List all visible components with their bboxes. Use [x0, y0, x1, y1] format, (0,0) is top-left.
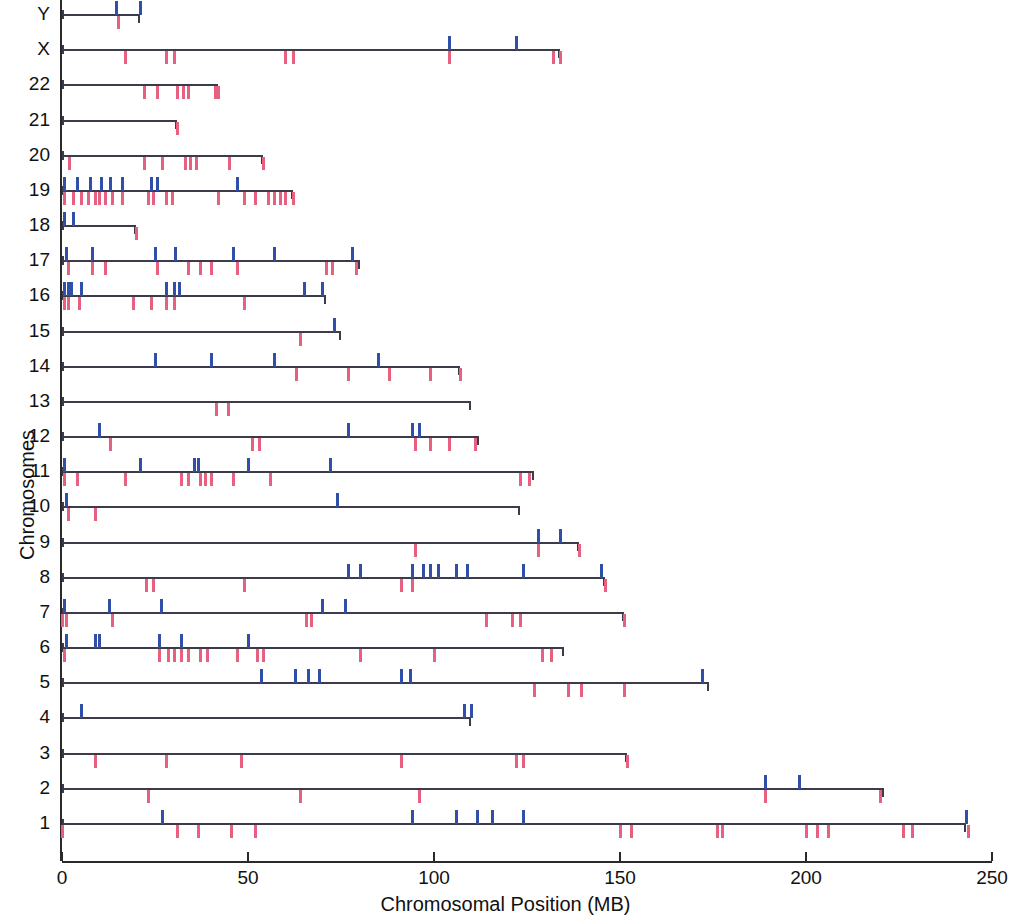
- marker-blue: [798, 775, 801, 789]
- marker-red: [173, 297, 176, 310]
- chromosome-end-cap: [339, 331, 341, 340]
- marker-red: [721, 825, 724, 838]
- marker-red: [165, 297, 168, 310]
- marker-red: [156, 86, 159, 99]
- marker-red: [279, 192, 282, 205]
- chromosome-label: 17: [0, 249, 50, 271]
- marker-blue: [537, 529, 540, 543]
- marker-blue: [63, 458, 66, 472]
- chromosome-label: 20: [0, 144, 50, 166]
- marker-red: [902, 825, 905, 838]
- chromosome-body-line: [62, 788, 884, 790]
- marker-red: [284, 192, 287, 205]
- marker-red: [230, 825, 233, 838]
- chromosome-end-cap: [138, 14, 140, 23]
- marker-blue: [411, 810, 414, 824]
- marker-red: [135, 227, 138, 240]
- marker-blue: [67, 282, 70, 296]
- marker-red: [269, 473, 272, 486]
- marker-red: [433, 649, 436, 662]
- marker-blue: [455, 810, 458, 824]
- chromosome-body-line: [62, 542, 579, 544]
- marker-red: [623, 684, 626, 697]
- marker-red: [94, 192, 97, 205]
- marker-blue: [260, 669, 263, 683]
- marker-red: [254, 825, 257, 838]
- marker-red: [236, 262, 239, 275]
- marker-red: [217, 86, 220, 99]
- marker-red: [310, 614, 313, 627]
- marker-red: [474, 438, 477, 451]
- marker-blue: [318, 669, 321, 683]
- chromosome-body-line: [62, 506, 520, 508]
- marker-red: [167, 649, 170, 662]
- marker-blue: [448, 36, 451, 50]
- marker-blue: [160, 599, 163, 613]
- marker-blue: [470, 704, 473, 718]
- marker-red: [68, 157, 71, 170]
- marker-blue: [178, 282, 181, 296]
- marker-blue: [210, 353, 213, 367]
- marker-red: [87, 192, 90, 205]
- chromosome-start-cap: [62, 116, 64, 125]
- marker-red: [240, 755, 243, 768]
- marker-red: [511, 614, 514, 627]
- chromosome-start-cap: [62, 362, 64, 371]
- marker-blue: [515, 36, 518, 50]
- marker-red: [199, 649, 202, 662]
- marker-red: [67, 262, 70, 275]
- marker-red: [552, 51, 555, 64]
- x-axis-tick: [61, 852, 63, 861]
- marker-red: [94, 508, 97, 521]
- marker-red: [550, 649, 553, 662]
- marker-blue: [422, 564, 425, 578]
- marker-red: [262, 157, 265, 170]
- marker-red: [429, 368, 432, 381]
- marker-blue: [347, 564, 350, 578]
- marker-red: [541, 649, 544, 662]
- marker-blue: [63, 599, 66, 613]
- marker-red: [519, 473, 522, 486]
- marker-red: [104, 192, 107, 205]
- marker-red: [522, 755, 525, 768]
- marker-red: [267, 192, 270, 205]
- marker-red: [187, 86, 190, 99]
- marker-red: [292, 51, 295, 64]
- marker-red: [124, 51, 127, 64]
- marker-red: [262, 649, 265, 662]
- chromosome-start-cap: [62, 10, 64, 19]
- marker-blue: [63, 212, 66, 226]
- marker-red: [206, 649, 209, 662]
- marker-blue: [455, 564, 458, 578]
- marker-red: [331, 262, 334, 275]
- marker-red: [61, 614, 64, 627]
- marker-red: [199, 262, 202, 275]
- marker-blue: [65, 634, 68, 648]
- marker-red: [295, 368, 298, 381]
- chromosome-body-line: [62, 49, 560, 51]
- marker-red: [173, 649, 176, 662]
- x-axis-tick: [433, 852, 435, 861]
- chromosome-body-line: [62, 295, 326, 297]
- chromosome-body-line: [62, 84, 218, 86]
- marker-red: [623, 614, 626, 627]
- marker-red: [827, 825, 830, 838]
- marker-red: [143, 86, 146, 99]
- marker-red: [180, 649, 183, 662]
- marker-red: [104, 262, 107, 275]
- marker-blue: [273, 247, 276, 261]
- marker-red: [243, 579, 246, 592]
- marker-blue: [247, 458, 250, 472]
- marker-blue: [463, 704, 466, 718]
- chromosome-label: 12: [0, 425, 50, 447]
- marker-red: [182, 86, 185, 99]
- marker-blue: [65, 247, 68, 261]
- marker-red: [176, 122, 179, 135]
- x-axis-tick-label: 150: [604, 867, 636, 889]
- marker-blue: [236, 177, 239, 191]
- marker-red: [347, 368, 350, 381]
- chromosome-end-cap: [324, 295, 326, 304]
- marker-red: [967, 825, 970, 838]
- marker-red: [292, 192, 295, 205]
- marker-blue: [91, 247, 94, 261]
